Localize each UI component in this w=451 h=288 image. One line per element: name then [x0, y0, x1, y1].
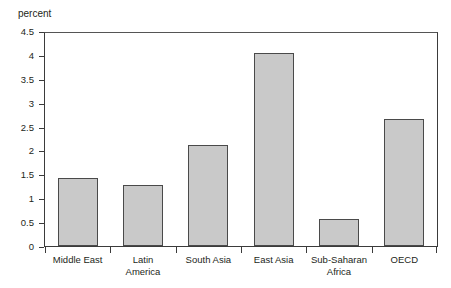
bar — [319, 219, 359, 246]
y-axis-tick-label: 2 — [29, 144, 34, 157]
bar-slot — [110, 33, 175, 246]
x-axis-tick-mark — [45, 247, 46, 253]
y-axis-tick-mark — [39, 56, 44, 57]
x-axis-tick-mark — [110, 247, 111, 253]
x-axis-tick-label: East Asia — [241, 254, 306, 278]
bar-slot — [176, 33, 241, 246]
x-axis-ticks — [45, 247, 437, 253]
bar-chart: percent 00.511.522.533.544.5 Middle East… — [0, 0, 451, 288]
x-axis-tick-mark — [241, 247, 242, 253]
x-axis-tick-mark — [372, 247, 373, 253]
y-axis-tick-mark — [39, 104, 44, 105]
bars-container — [45, 33, 437, 246]
x-axis-labels: Middle EastLatin AmericaSouth AsiaEast A… — [45, 254, 437, 278]
x-axis-tick-label: South Asia — [176, 254, 241, 278]
x-axis-tick-label: OECD — [372, 254, 437, 278]
bar — [123, 185, 163, 246]
x-axis-tick-mark — [436, 247, 437, 253]
y-axis-tick-label: 1.5 — [21, 168, 34, 181]
y-axis-tick-mark — [39, 151, 44, 152]
x-axis-tick-mark — [306, 247, 307, 253]
y-axis-tick-mark — [39, 175, 44, 176]
x-axis-tick-label: Latin America — [110, 254, 175, 278]
x-axis-tick-label: Middle East — [45, 254, 110, 278]
y-axis-tick-mark — [39, 32, 44, 33]
bar-slot — [372, 33, 437, 246]
y-axis-tick-label: 1 — [29, 192, 34, 205]
y-axis-tick-label: 3.5 — [21, 73, 34, 86]
y-axis-tick-mark — [39, 80, 44, 81]
y-axis-tick-mark — [39, 247, 44, 248]
y-axis-tick-mark — [39, 128, 44, 129]
bar — [188, 145, 228, 246]
bar — [384, 119, 424, 246]
bar — [254, 53, 294, 247]
y-axis-tick-label: 4 — [29, 49, 34, 62]
bar-slot — [45, 33, 110, 246]
x-axis-tick-mark — [176, 247, 177, 253]
bar — [58, 178, 98, 246]
y-axis-tick-mark — [39, 199, 44, 200]
y-axis-tick-label: 0 — [29, 240, 34, 253]
y-axis-tick-label: 4.5 — [21, 25, 34, 38]
x-axis-tick-label: Sub-Saharan Africa — [306, 254, 371, 278]
y-axis-tick-label: 0.5 — [21, 216, 34, 229]
bar-slot — [306, 33, 371, 246]
bar-slot — [241, 33, 306, 246]
y-axis-tick-label: 3 — [29, 97, 34, 110]
y-axis-label: percent — [18, 8, 51, 20]
y-axis-tick-label: 2.5 — [21, 121, 34, 134]
y-axis-tick-mark — [39, 223, 44, 224]
